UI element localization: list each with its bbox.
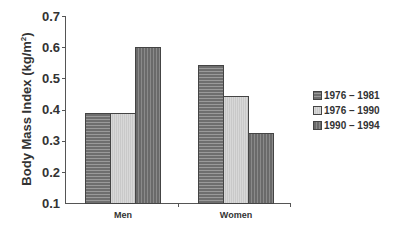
y-tick-label: 0.5 (32, 71, 60, 86)
legend-swatch-icon (313, 91, 322, 100)
y-tick (62, 110, 66, 111)
legend-label: 1976 – 1981 (324, 90, 380, 101)
legend-swatch-icon (313, 106, 322, 115)
legend-item: 1976 – 1990 (313, 104, 380, 117)
bar-chart: Body Mass Index (kg/m2) 0.7 0.6 0.5 0.4 … (0, 0, 393, 230)
y-tick (62, 78, 66, 79)
y-tick-label: 0.1 (32, 196, 60, 211)
legend-label: 1976 – 1990 (324, 105, 380, 116)
y-tick-label: 0.2 (32, 165, 60, 180)
bar-women-1976-1990 (223, 96, 249, 204)
bar-women-1976-1981 (198, 65, 224, 204)
y-tick (62, 141, 66, 142)
legend-label: 1990 – 1994 (324, 120, 380, 131)
category-label-men: Men (83, 210, 163, 220)
y-tick-label: 0.6 (32, 40, 60, 55)
bar-men-1990-1994 (135, 47, 161, 204)
bar-women-1990-1994 (248, 133, 274, 204)
y-tick (62, 16, 66, 17)
bar-men-1976-1981 (85, 113, 111, 204)
legend-item: 1990 – 1994 (313, 119, 380, 132)
y-tick (62, 172, 66, 173)
legend-item: 1976 – 1981 (313, 89, 380, 102)
bar-men-1976-1990 (110, 113, 136, 204)
y-tick-label: 0.4 (32, 102, 60, 117)
category-label-women: Women (196, 210, 276, 220)
legend-swatch-icon (313, 121, 322, 130)
y-tick-label: 0.7 (32, 9, 60, 24)
y-tick-label: 0.3 (32, 133, 60, 148)
y-tick (62, 47, 66, 48)
x-tick (178, 203, 179, 207)
legend: 1976 – 1981 1976 – 1990 1990 – 1994 (313, 89, 380, 134)
x-tick (290, 203, 291, 207)
